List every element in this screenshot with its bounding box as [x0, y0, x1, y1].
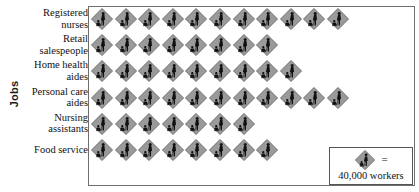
worker-pictogram-icon: [114, 112, 138, 136]
worker-pictogram-icon: [232, 86, 256, 110]
worker-pictogram-icon: [114, 33, 138, 57]
category-label-column: Registered nursesRetail salespeopleHome …: [16, 0, 88, 192]
worker-pictogram-icon: [255, 86, 279, 110]
category-label: Home health aides: [16, 59, 88, 82]
worker-pictogram-icon: [90, 138, 114, 162]
worker-pictogram-icon: [208, 59, 232, 83]
worker-pictogram-icon: [137, 33, 161, 57]
worker-pictogram-icon: [114, 59, 138, 83]
worker-pictogram-icon: [255, 33, 279, 57]
legend-key-row: =: [330, 149, 412, 170]
worker-pictogram-icon: [90, 7, 114, 31]
worker-pictogram-icon: [232, 112, 256, 136]
category-label: Personal care aides: [16, 86, 88, 109]
worker-pictogram-icon: [255, 138, 279, 162]
worker-pictogram-icon: [279, 86, 303, 110]
worker-pictogram-icon: [208, 138, 232, 162]
worker-pictogram-icon: [114, 86, 138, 110]
worker-pictogram-icon: [90, 33, 114, 57]
worker-pictogram-icon: [354, 149, 376, 171]
worker-pictogram-icon: [326, 86, 350, 110]
worker-pictogram-icon: [184, 86, 208, 110]
worker-pictogram-icon: [184, 112, 208, 136]
category-label: Nursing assistants: [16, 112, 88, 135]
worker-pictogram-icon: [184, 59, 208, 83]
category-label: Registered nurses: [16, 7, 88, 30]
worker-pictogram-icon: [208, 112, 232, 136]
worker-pictogram-icon: [161, 7, 185, 31]
worker-pictogram-icon: [232, 138, 256, 162]
worker-pictogram-icon: [255, 7, 279, 31]
worker-pictogram-icon: [279, 7, 303, 31]
worker-pictogram-icon: [232, 7, 256, 31]
worker-pictogram-icon: [137, 59, 161, 83]
pictogram-row: [90, 138, 283, 162]
category-label: Retail salespeople: [16, 33, 88, 56]
pictogram-row: [90, 112, 259, 136]
worker-pictogram-icon: [161, 112, 185, 136]
worker-pictogram-icon: [90, 86, 114, 110]
worker-pictogram-icon: [302, 86, 326, 110]
worker-pictogram-icon: [114, 7, 138, 31]
worker-pictogram-icon: [208, 33, 232, 57]
worker-pictogram-icon: [184, 7, 208, 31]
worker-pictogram-icon: [326, 7, 350, 31]
worker-pictogram-icon: [114, 138, 138, 162]
worker-pictogram-icon: [161, 86, 185, 110]
worker-pictogram-icon: [208, 86, 232, 110]
worker-pictogram-icon: [161, 33, 185, 57]
worker-pictogram-icon: [208, 7, 232, 31]
category-label: Food service: [16, 144, 88, 156]
worker-pictogram-icon: [137, 7, 161, 31]
worker-pictogram-icon: [90, 112, 114, 136]
worker-pictogram-icon: [302, 7, 326, 31]
worker-pictogram-icon: [279, 59, 303, 83]
legend-equals-sign: =: [381, 154, 387, 165]
pictogram-row: [90, 86, 354, 110]
worker-pictogram-icon: [161, 59, 185, 83]
worker-pictogram-icon: [232, 59, 256, 83]
worker-pictogram-icon: [137, 112, 161, 136]
pictogram-row: [90, 59, 306, 83]
worker-pictogram-icon: [137, 86, 161, 110]
worker-pictogram-icon: [90, 59, 114, 83]
legend-caption: 40,000 workers: [330, 170, 412, 181]
pictogram-row: [90, 7, 354, 31]
worker-pictogram-icon: [232, 33, 256, 57]
worker-pictogram-icon: [161, 138, 185, 162]
worker-pictogram-icon: [137, 138, 161, 162]
worker-pictogram-icon: [255, 59, 279, 83]
worker-pictogram-icon: [184, 33, 208, 57]
pictogram-row: [90, 33, 283, 57]
legend: = 40,000 workers: [329, 147, 413, 185]
worker-pictogram-icon: [184, 138, 208, 162]
pictograph-chart: Jobs Registered nursesRetail salespeople…: [0, 0, 419, 192]
